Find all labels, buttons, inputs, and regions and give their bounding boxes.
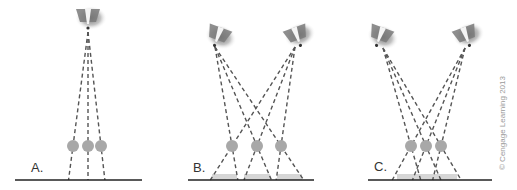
light-ray: [383, 48, 441, 180]
light-ray: [433, 48, 465, 180]
panel-a: [15, 6, 142, 180]
lamp-icon: [281, 18, 319, 51]
shadow-region: [244, 174, 270, 180]
lamp-icon: [450, 18, 488, 51]
panel-label-c: C.: [374, 159, 387, 174]
ball: [95, 140, 107, 152]
ball: [435, 140, 447, 152]
ball: [420, 140, 432, 152]
light-ray: [244, 47, 295, 180]
panel-b: [188, 18, 319, 180]
light-source-point: [86, 26, 89, 29]
light-ray: [383, 48, 461, 180]
ball: [405, 140, 417, 152]
light-ray: [69, 32, 88, 180]
light-ray: [412, 48, 465, 180]
lamp-icon: [75, 6, 107, 30]
lamp-icon: [364, 20, 402, 53]
light-ray: [276, 47, 295, 180]
light-ray: [88, 32, 105, 180]
copyright-notice: © Cengage Learning 2013: [498, 76, 507, 170]
ball: [275, 140, 287, 152]
ball: [251, 140, 263, 152]
shadow-region: [277, 174, 302, 180]
light-ray: [215, 47, 304, 180]
shadow-region: [397, 174, 457, 180]
light-ray: [383, 48, 421, 180]
ball: [82, 140, 94, 152]
panel-c: [364, 18, 492, 180]
ball: [226, 140, 238, 152]
shadow-diagram: [0, 0, 517, 190]
panel-label-a: A.: [31, 160, 43, 175]
light-ray: [215, 47, 238, 180]
light-ray: [392, 48, 465, 180]
ball: [67, 140, 79, 152]
lamp-icon: [202, 20, 240, 53]
shadow-region: [212, 174, 237, 180]
panel-label-b: B.: [193, 160, 205, 175]
